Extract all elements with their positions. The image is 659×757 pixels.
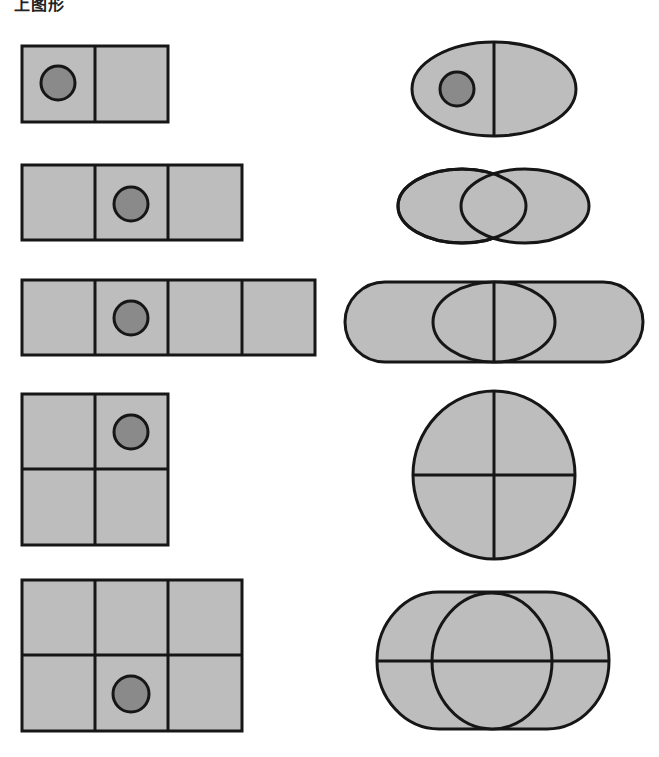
shapes-diagram [0,0,659,757]
dot-marker [113,676,149,712]
rect-2x2-shape [22,394,168,545]
dot-marker [440,72,474,106]
stadium-ellipse-shape [345,282,643,362]
rect-1x2-shape [22,46,168,122]
overlapping-ellipses-shape [398,169,589,243]
rect-1x3-shape [22,165,242,240]
dot-marker [41,66,75,100]
quartered-circle-shape [413,391,575,559]
rect-2x3-shape [22,580,242,731]
ellipse-split-shape [412,42,576,136]
stadium-circle-shape [377,592,609,729]
rect-1x4-shape [22,280,315,355]
dot-marker [114,301,148,335]
dot-marker [114,187,148,221]
dot-marker [114,415,148,449]
